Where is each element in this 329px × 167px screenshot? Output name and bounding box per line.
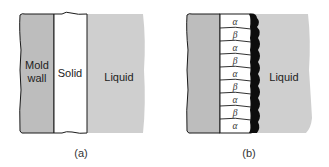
solidification-diagram: Mold wall Solid Liquid (a) α β α β α [0,0,329,167]
mold-wall-label-line2: wall [27,72,47,84]
solid-label: Solid [58,67,82,79]
liquid-label-b: Liquid [269,71,298,83]
caption-a: (a) [74,147,87,159]
panel-a: Mold wall Solid Liquid (a) [20,12,145,159]
phase-label: β [232,108,238,118]
liquid-label-a: Liquid [104,71,133,83]
caption-b: (b) [242,147,255,159]
panel-b: α β α β α β α β α Liquid (b) [187,14,312,160]
phase-label: β [232,30,238,40]
phase-label: β [232,82,238,92]
mold-wall-label-line1: Mold [25,59,49,71]
mold-wall-b [187,14,220,134]
phase-label: β [232,56,238,66]
